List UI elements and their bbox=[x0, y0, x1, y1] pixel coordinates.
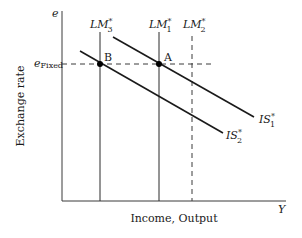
lm3-label: LM*3 bbox=[89, 17, 113, 34]
lm2-label: LM*2 bbox=[182, 17, 206, 34]
mundell-fleming-diagram: e Y Exchange rate Income, Output eFixed … bbox=[0, 0, 302, 238]
equilibrium-point-a bbox=[156, 61, 162, 67]
point-b-label: B bbox=[104, 51, 112, 64]
lm1-label: LM*1 bbox=[148, 17, 172, 34]
fixed-exchange-rate-label: eFixed bbox=[34, 57, 63, 70]
point-a-label: A bbox=[163, 51, 173, 64]
y-axis-symbol: e bbox=[52, 7, 59, 20]
x-axis-symbol: Y bbox=[278, 203, 287, 216]
y-axis-title: Exchange rate bbox=[14, 66, 27, 147]
x-axis-title: Income, Output bbox=[130, 212, 218, 225]
equilibrium-point-b bbox=[97, 61, 103, 67]
is2-label: IS*2 bbox=[225, 128, 242, 145]
is1-curve bbox=[113, 37, 254, 117]
is1-label: IS*1 bbox=[258, 112, 275, 129]
